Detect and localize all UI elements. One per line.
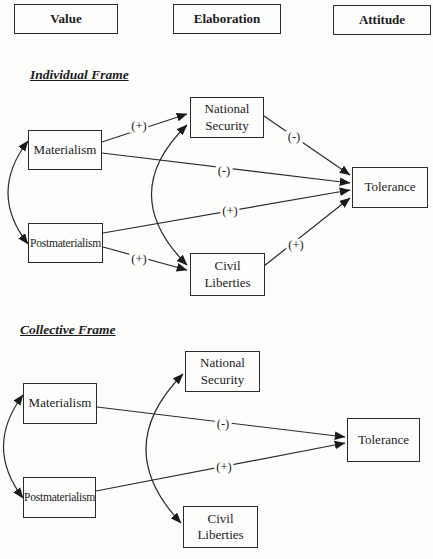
edge-ind-civil-liberties-tolerance — [264, 198, 350, 266]
edge-col-materialism-postmaterialism-covariance — [4, 395, 24, 498]
sign-col-postmaterialism-tolerance: (+) — [214, 461, 233, 474]
column-header-value-label: Value — [50, 11, 81, 27]
node-col-postmaterialism-label: Postmaterialism — [24, 490, 95, 504]
sign-ind-materialism-tolerance: (-) — [216, 165, 233, 178]
column-header-value: Value — [14, 4, 118, 34]
column-header-elaboration: Elaboration — [173, 4, 281, 34]
edge-ind-national-security-tolerance — [264, 116, 350, 175]
node-ind-national-security-label: National Security — [193, 101, 261, 134]
node-col-national-security-label: National Security — [188, 355, 257, 388]
node-ind-materialism-label: Materialism — [34, 142, 97, 158]
collective-frame-title: Collective Frame — [20, 322, 116, 338]
node-col-postmaterialism: Postmaterialism — [23, 477, 96, 518]
column-header-elaboration-label: Elaboration — [194, 11, 260, 27]
node-ind-materialism: Materialism — [28, 130, 102, 170]
sign-ind-postmaterialism-civil-liberties: (+) — [129, 253, 148, 266]
path-diagram: Value Elaboration Attitude Individual Fr… — [0, 0, 433, 559]
column-header-attitude-label: Attitude — [359, 12, 405, 28]
node-ind-tolerance: Tolerance — [352, 167, 428, 208]
node-ind-postmaterialism: Postmaterialism — [28, 223, 103, 263]
sign-ind-national-security-tolerance: (-) — [286, 131, 303, 144]
node-ind-postmaterialism-label: Postmaterialism — [30, 236, 101, 250]
node-col-national-security: National Security — [185, 351, 260, 392]
node-ind-civil-liberties-label: Civil Liberties — [193, 258, 262, 291]
individual-frame-title: Individual Frame — [30, 67, 129, 83]
node-ind-national-security: National Security — [190, 97, 264, 138]
node-ind-civil-liberties: Civil Liberties — [190, 253, 265, 296]
node-col-civil-liberties-label: Civil Liberties — [186, 511, 255, 544]
node-col-civil-liberties: Civil Liberties — [183, 506, 258, 548]
node-col-materialism: Materialism — [23, 383, 97, 424]
node-ind-tolerance-label: Tolerance — [364, 179, 415, 195]
edge-ind-national-security-civil-liberties-covariance — [152, 125, 188, 265]
column-header-attitude: Attitude — [333, 5, 431, 35]
node-col-tolerance-label: Tolerance — [358, 432, 409, 448]
sign-ind-postmaterialism-tolerance: (+) — [220, 205, 239, 218]
sign-col-materialism-tolerance: (-) — [215, 418, 232, 431]
node-col-tolerance: Tolerance — [347, 418, 420, 462]
sign-ind-civil-liberties-tolerance: (+) — [286, 239, 305, 252]
edge-ind-materialism-postmaterialism-covariance — [8, 141, 28, 244]
node-col-materialism-label: Materialism — [29, 395, 92, 411]
sign-ind-materialism-national-security: (+) — [129, 120, 148, 133]
edge-col-national-security-civil-liberties-covariance — [146, 374, 183, 523]
